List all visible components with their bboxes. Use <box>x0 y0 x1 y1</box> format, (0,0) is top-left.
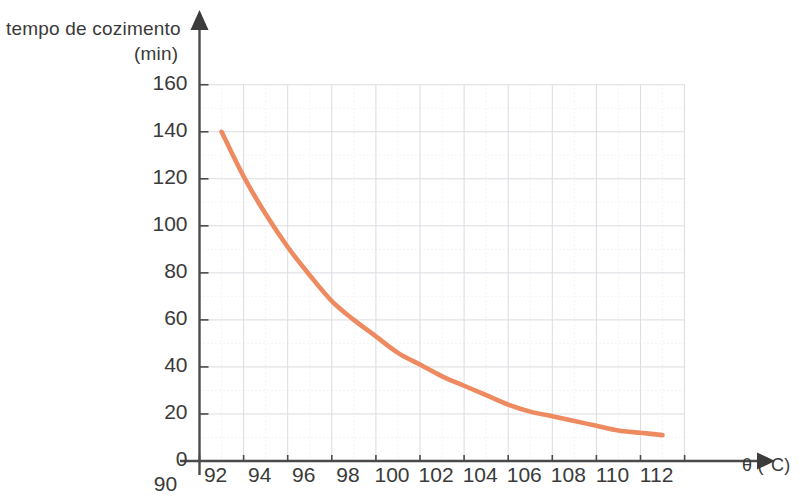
y-tick-label-60: 60 <box>126 306 188 330</box>
x-tick-label-112: 112 <box>629 463 685 487</box>
y-tick-label-0: 0 <box>126 447 188 471</box>
chart-container: tempo de cozimento (min) θ (°C) 02040608… <box>0 0 812 496</box>
y-tick-label-80: 80 <box>126 259 188 283</box>
x-tick-label-90: 90 <box>138 472 194 496</box>
x-axis-title: θ (°C) <box>742 455 790 476</box>
y-tick-label-140: 140 <box>126 118 188 142</box>
y-tick-label-160: 160 <box>126 71 188 95</box>
y-axis-unit-label: (min) <box>134 43 178 65</box>
chart-plot-svg <box>0 0 812 496</box>
y-tick-label-120: 120 <box>126 165 188 189</box>
y-tick-label-40: 40 <box>126 353 188 377</box>
y-tick-label-20: 20 <box>126 400 188 424</box>
y-axis-title: tempo de cozimento <box>6 18 181 40</box>
y-axis-arrow-icon <box>191 10 209 30</box>
y-tick-label-100: 100 <box>126 212 188 236</box>
y-axis-tick-marks <box>200 85 209 461</box>
